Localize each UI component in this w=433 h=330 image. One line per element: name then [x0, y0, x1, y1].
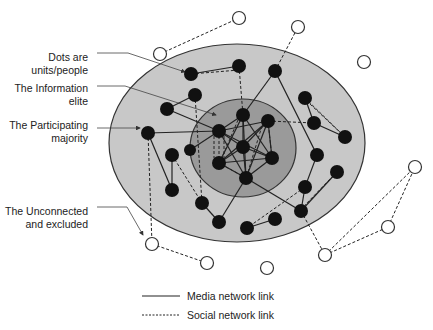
- unconnected-node: [292, 21, 305, 34]
- elite-node: [212, 156, 226, 170]
- node: [184, 144, 196, 156]
- node: [307, 116, 321, 130]
- unconnected-node: [358, 56, 371, 69]
- legend-social-label: Social network link: [187, 309, 275, 321]
- unconnected-node: [409, 161, 422, 174]
- legend: Media network link Social network link: [142, 290, 275, 321]
- unconnected-node: [233, 12, 246, 25]
- node: [294, 204, 308, 218]
- node: [188, 88, 202, 102]
- unconnected-node: [154, 48, 167, 61]
- node: [268, 64, 282, 78]
- node: [141, 126, 155, 140]
- node: [165, 148, 179, 162]
- legend-media-label: Media network link: [187, 290, 275, 302]
- unconnected-node: [382, 221, 395, 234]
- unconnected-node: [201, 257, 214, 270]
- node: [232, 59, 246, 73]
- node: [240, 221, 254, 235]
- node: [165, 183, 179, 197]
- node: [268, 212, 282, 226]
- elite-node: [265, 151, 279, 165]
- network-diagram: Media network link Social network link: [0, 0, 433, 330]
- node: [298, 180, 312, 194]
- node: [184, 67, 198, 81]
- node: [330, 165, 344, 179]
- elite-node: [261, 114, 275, 128]
- node: [298, 91, 312, 105]
- node: [338, 130, 352, 144]
- unconnected-node: [261, 262, 274, 275]
- elite-node: [239, 171, 253, 185]
- unconnected-node: [319, 249, 332, 262]
- elite-node: [236, 140, 250, 154]
- node: [310, 148, 324, 162]
- node: [195, 196, 209, 210]
- node: [160, 102, 174, 116]
- unconnected-node: [146, 238, 159, 251]
- node: [212, 215, 226, 229]
- elite-node: [236, 108, 250, 122]
- elite-node: [212, 124, 226, 138]
